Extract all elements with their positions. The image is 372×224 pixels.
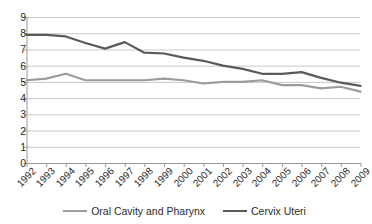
x-tick-label-2007: 2007: [309, 166, 332, 189]
y-tick-label-8: 8: [4, 28, 26, 39]
x-tick-label-1999: 1999: [152, 166, 175, 189]
x-tick-label-1994: 1994: [54, 166, 77, 189]
x-tick-label-1997: 1997: [113, 166, 136, 189]
legend-swatch-icon-0: [63, 210, 87, 213]
y-axis-labels: 0123456789: [0, 0, 26, 180]
legend-item-0[interactable]: Oral Cavity and Pharynx: [63, 206, 205, 217]
y-tick-label-5: 5: [4, 77, 26, 88]
x-tick-label-1993: 1993: [34, 166, 57, 189]
y-tick-label-6: 6: [4, 60, 26, 71]
x-tick-label-2000: 2000: [172, 166, 195, 189]
x-tick-label-2008: 2008: [329, 166, 352, 189]
plot-canvas: [0, 0, 369, 180]
y-tick-label-2: 2: [4, 125, 26, 136]
y-tick-label-9: 9: [4, 12, 26, 23]
x-tick-label-2004: 2004: [251, 166, 274, 189]
y-tick-label-1: 1: [4, 142, 26, 153]
x-tick-label-1998: 1998: [133, 166, 156, 189]
x-tick-label-1992: 1992: [15, 166, 38, 189]
plot-area: 0123456789: [0, 0, 369, 180]
y-tick-label-7: 7: [4, 44, 26, 55]
x-tick-label-2009: 2009: [349, 166, 372, 189]
x-tick-label-1996: 1996: [93, 166, 116, 189]
legend-label-1: Cervix Uteri: [251, 206, 306, 217]
y-tick-label-4: 4: [4, 93, 26, 104]
y-tick-label-3: 3: [4, 109, 26, 120]
x-tick-label-1995: 1995: [74, 166, 97, 189]
x-tick-label-2006: 2006: [290, 166, 313, 189]
x-tick-label-2002: 2002: [211, 166, 234, 189]
legend-swatch-icon-1: [223, 210, 247, 213]
x-tick-label-2001: 2001: [192, 166, 215, 189]
series-lines: [27, 35, 361, 92]
x-tick-label-2003: 2003: [231, 166, 254, 189]
x-tick-label-2005: 2005: [270, 166, 293, 189]
chart-legend: Oral Cavity and PharynxCervix Uteri: [0, 201, 369, 221]
legend-label-0: Oral Cavity and Pharynx: [91, 206, 205, 217]
legend-item-1[interactable]: Cervix Uteri: [223, 206, 306, 217]
